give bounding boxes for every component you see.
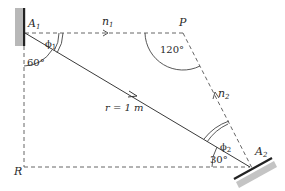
- angle-arcs: [24, 33, 229, 167]
- ray-a1-a2: [25, 33, 250, 167]
- optics-diagram: A1 n1 P 60° ϕ1 120° n2 r = 1 m ϕ2 30° A2…: [0, 0, 285, 191]
- label-n2: n2: [218, 87, 230, 101]
- label-angle-120: 120°: [160, 44, 184, 55]
- label-p: P: [178, 16, 187, 29]
- label-phi1: ϕ1: [45, 38, 56, 51]
- label-angle-30: 30°: [210, 154, 228, 165]
- label-a1: A1: [27, 17, 40, 31]
- arc-phi2-b: [204, 121, 229, 139]
- label-distance: r = 1 m: [105, 102, 144, 113]
- label-n1: n1: [102, 15, 114, 29]
- ray-arrow-icon: [128, 91, 137, 97]
- mirror-a1: [15, 8, 25, 46]
- mirror-a2: [234, 158, 277, 188]
- label-angle-60: 60°: [27, 57, 45, 68]
- label-a2: A2: [254, 145, 268, 159]
- label-r-point: R: [13, 165, 22, 178]
